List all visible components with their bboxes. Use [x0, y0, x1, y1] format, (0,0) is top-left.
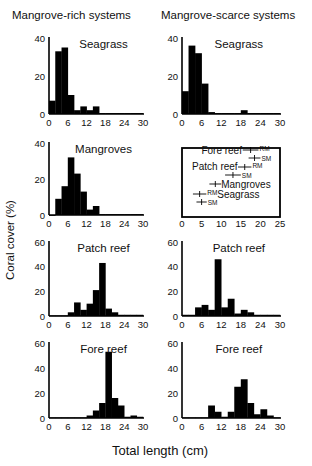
- y-axis-label: Coral cover (%): [4, 200, 16, 280]
- x-tick-label: 18: [100, 117, 111, 128]
- histogram-bar: [93, 206, 100, 215]
- histogram-bar: [247, 403, 254, 418]
- x-tick-label: 24: [119, 319, 130, 330]
- y-tick-label: 0: [173, 109, 178, 120]
- column-title-left: Mangrove-rich systems: [12, 9, 131, 21]
- x-tick-label: 30: [138, 319, 149, 330]
- x-tick-label: 6: [65, 218, 70, 229]
- y-tick-label: 40: [34, 363, 45, 374]
- x-tick-label: 0: [46, 218, 51, 229]
- histogram-bar: [99, 403, 106, 418]
- panel-fore-reef: 02040600612182430Fore reef: [167, 338, 285, 433]
- histogram-bar: [260, 409, 267, 418]
- y-tick-label: 20: [34, 174, 45, 185]
- histogram-bar: [221, 307, 228, 316]
- series-label: SM: [208, 199, 218, 206]
- series-label: SM: [242, 172, 252, 179]
- histogram-bar: [195, 307, 202, 316]
- x-tick-label: 12: [216, 117, 227, 128]
- histogram-bar: [202, 84, 209, 114]
- habitat-label: Seagrass: [217, 189, 259, 200]
- x-tick-label: 0: [46, 117, 51, 128]
- panel-title: Mangroves: [75, 143, 132, 155]
- y-tick-label: 40: [34, 33, 45, 44]
- x-tick-label: 6: [65, 117, 70, 128]
- histogram-bar: [68, 95, 75, 114]
- x-tick-label: 18: [236, 117, 247, 128]
- histogram-bar: [62, 186, 69, 215]
- histogram-bar: [112, 398, 119, 418]
- histogram-bar: [74, 174, 81, 215]
- panel-patch-reef: 02040600612182430Patch reef: [34, 237, 148, 331]
- histogram-bar: [215, 412, 222, 418]
- histogram-bar: [202, 305, 209, 316]
- histogram-bar: [55, 51, 62, 114]
- y-tick-label: 0: [173, 413, 178, 424]
- histogram-bar: [62, 48, 69, 115]
- histogram-bar: [87, 210, 94, 215]
- x-tick-label: 5: [199, 218, 204, 229]
- panel-title: Seagrass: [79, 38, 128, 50]
- x-tick-label: 24: [119, 218, 130, 229]
- y-tick-label: 60: [34, 237, 45, 248]
- panel-fore-reef: 02040600612182430Fore reef: [34, 338, 148, 433]
- histogram-bar: [87, 304, 94, 316]
- histogram-bar: [80, 192, 87, 215]
- panel-title: Seagrass: [215, 38, 264, 50]
- x-tick-label: 30: [275, 319, 286, 330]
- panel-title: Patch reef: [213, 242, 266, 254]
- x-tick-label: 0: [179, 117, 184, 128]
- y-tick-label: 20: [34, 286, 45, 297]
- x-tick-label: 24: [119, 421, 130, 432]
- x-tick-label: 25: [275, 218, 286, 229]
- histogram-bar: [228, 299, 235, 316]
- histogram-bar: [68, 157, 75, 215]
- x-tick-label: 6: [65, 421, 70, 432]
- histogram-bar: [105, 352, 112, 418]
- panel-title: Fore reef: [80, 343, 127, 355]
- y-tick-label: 0: [40, 210, 45, 221]
- histogram-bar: [208, 406, 215, 419]
- y-tick-label: 0: [40, 109, 45, 120]
- y-tick-label: 20: [34, 388, 45, 399]
- histogram-bar: [195, 53, 202, 114]
- x-tick-label: 24: [255, 117, 266, 128]
- histogram-bar: [93, 290, 100, 316]
- x-tick-label: 0: [179, 218, 184, 229]
- x-tick-label: 30: [138, 218, 149, 229]
- x-tick-label: 24: [119, 117, 130, 128]
- y-tick-label: 20: [34, 71, 45, 82]
- x-tick-label: 18: [100, 218, 111, 229]
- series-label: RM: [259, 145, 269, 152]
- panel-title: Fore reef: [216, 343, 263, 355]
- x-tick-label: 18: [236, 421, 247, 432]
- y-tick-label: 60: [34, 338, 45, 349]
- histogram-bar: [241, 379, 248, 418]
- y-tick-label: 20: [167, 388, 178, 399]
- x-tick-label: 18: [100, 421, 111, 432]
- x-tick-label: 0: [46, 421, 51, 432]
- x-tick-label: 6: [199, 117, 204, 128]
- histogram-bar: [74, 302, 81, 316]
- x-tick-label: 24: [255, 421, 266, 432]
- x-tick-label: 12: [81, 421, 92, 432]
- y-tick-label: 40: [34, 138, 45, 149]
- x-tick-label: 6: [199, 319, 204, 330]
- histogram-bar: [241, 310, 248, 316]
- x-tick-label: 12: [81, 319, 92, 330]
- figure: Mangrove-rich systems Mangrove-scarce sy…: [0, 0, 312, 466]
- x-tick-label: 6: [199, 421, 204, 432]
- x-tick-label: 18: [100, 319, 111, 330]
- x-tick-label: 18: [236, 319, 247, 330]
- histogram-bar: [182, 91, 189, 114]
- x-tick-label: 12: [216, 421, 227, 432]
- x-tick-label: 12: [81, 117, 92, 128]
- histogram-bar: [215, 259, 222, 316]
- y-tick-label: 40: [167, 261, 178, 272]
- series-label: RM: [207, 189, 217, 196]
- x-tick-label: 0: [179, 421, 184, 432]
- histogram-bar: [189, 46, 196, 114]
- y-tick-label: 20: [167, 286, 178, 297]
- x-tick-label: 30: [275, 421, 286, 432]
- y-tick-label: 60: [167, 338, 178, 349]
